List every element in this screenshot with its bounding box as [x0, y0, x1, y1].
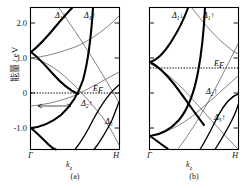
y-axis-tick-labels: 2.0 1.0 0 -1.0: [0, 0, 27, 188]
y-tick-label-1: 1.0: [16, 53, 27, 63]
panel-a-x-end-label: H: [113, 150, 119, 160]
panel-b-x-end-label: H: [232, 150, 238, 160]
panel-b-x-axis-name: kz: [186, 159, 192, 171]
panel-a-x-axis-name: kz: [66, 159, 72, 171]
y-tick-label-2: 2.0: [16, 18, 27, 28]
y-tick-label-0: 0: [23, 88, 27, 98]
panel-a-caption: (a): [65, 172, 85, 181]
panel-a-x-axis-subscript: z: [70, 165, 72, 171]
panel-b-x-axis-subscript: z: [190, 165, 192, 171]
y-tick-label-neg1: -1.0: [14, 123, 27, 133]
panel-b-plot: Δ1↓ Δ1↑ Δ2↑ Δ5↑ EF: [148, 6, 240, 154]
panel-b-frame: [150, 8, 239, 150]
panel-b-caption: (b): [184, 172, 204, 181]
panel-a-x-start-label: Γ: [28, 150, 33, 160]
band-structure-figure: 能量 / eV 2.0 1.0 0 -1.0: [0, 0, 245, 188]
panel-a-plot: Δ1↓ Δ1↑ Δ2↑ Δ5 EF: [29, 6, 121, 154]
panel-b-x-start-label: Γ: [147, 150, 152, 160]
panel-a-frame: [31, 8, 120, 150]
